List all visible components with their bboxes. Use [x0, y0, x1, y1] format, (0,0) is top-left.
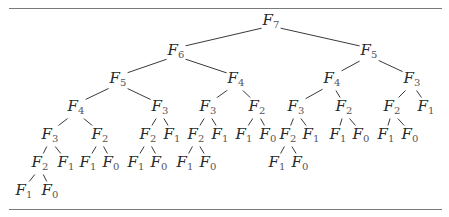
tree-node-f2: F2 [31, 154, 50, 175]
node-symbol: F [404, 69, 414, 87]
tree-node-f0: F0 [291, 154, 310, 175]
tree-node-f0: F0 [41, 182, 60, 203]
node-index: 1 [68, 161, 74, 172]
node-index: 1 [340, 133, 346, 144]
tree-node-f1: F1 [417, 98, 436, 119]
node-index: 1 [279, 161, 285, 172]
tree-node-f0: F0 [401, 126, 420, 147]
node-index: 2 [259, 105, 265, 116]
node-symbol: F [80, 153, 90, 171]
node-symbol: F [58, 153, 68, 171]
node-index: 2 [290, 133, 296, 144]
tree-node-f1: F1 [211, 126, 230, 147]
node-symbol: F [249, 97, 259, 115]
tree-node-f1: F1 [377, 126, 396, 147]
node-symbol: F [103, 153, 113, 171]
node-index: 1 [246, 133, 252, 144]
tree-node-f1: F1 [127, 154, 146, 175]
tree-node-f1: F1 [302, 126, 321, 147]
node-index: 1 [90, 161, 96, 172]
node-index: 6 [178, 49, 184, 60]
tree-node-f4: F4 [67, 98, 86, 119]
tree-node-f5: F5 [360, 42, 379, 63]
node-symbol: F [263, 11, 273, 29]
fibonacci-tree-figure: F7F6F5F5F4F4F3F4F3F3F2F3F2F2F1F3F2F2F1F2… [0, 0, 449, 217]
tree-node-f2: F2 [139, 126, 158, 147]
tree-node-f2: F2 [279, 126, 298, 147]
node-index: 0 [270, 133, 276, 144]
node-index: 0 [52, 189, 58, 200]
node-index: 7 [273, 19, 279, 30]
tree-node-f2: F2 [335, 98, 354, 119]
tree-node-f2: F2 [248, 98, 267, 119]
node-index: 3 [52, 133, 58, 144]
node-index: 2 [42, 161, 48, 172]
node-index: 1 [26, 189, 32, 200]
node-index: 3 [414, 77, 420, 88]
node-index: 1 [313, 133, 319, 144]
node-symbol: F [110, 69, 120, 87]
node-symbol: F [92, 125, 102, 143]
node-index: 0 [363, 133, 369, 144]
tree-node-f4: F4 [227, 70, 246, 91]
node-symbol: F [280, 125, 290, 143]
tree-node-f3: F3 [199, 98, 218, 119]
tree-node-f3: F3 [41, 126, 60, 147]
tree-node-f0: F0 [150, 154, 169, 175]
tree-node-f5: F5 [109, 70, 128, 91]
tree-node-f0: F0 [259, 126, 278, 147]
node-symbol: F [151, 153, 161, 171]
node-index: 2 [198, 133, 204, 144]
node-index: 3 [210, 105, 216, 116]
node-symbol: F [212, 125, 222, 143]
node-index: 2 [394, 105, 400, 116]
node-symbol: F [269, 153, 279, 171]
node-symbol: F [236, 125, 246, 143]
node-index: 4 [78, 105, 84, 116]
node-symbol: F [68, 97, 78, 115]
tree-node-f1: F1 [235, 126, 254, 147]
node-symbol: F [324, 69, 334, 87]
tree-edge [271, 26, 369, 48]
node-index: 4 [334, 77, 340, 88]
tree-node-f0: F0 [199, 154, 218, 175]
node-symbol: F [303, 125, 313, 143]
tree-node-f2: F2 [91, 126, 110, 147]
tree-node-f1: F1 [176, 154, 195, 175]
node-index: 1 [428, 105, 434, 116]
bottom-rule [9, 209, 442, 210]
tree-node-f1: F1 [268, 154, 287, 175]
tree-node-f1: F1 [163, 126, 182, 147]
node-symbol: F [228, 69, 238, 87]
node-index: 3 [298, 105, 304, 116]
node-index: 1 [138, 161, 144, 172]
node-index: 0 [412, 133, 418, 144]
tree-node-f6: F6 [167, 42, 186, 63]
node-symbol: F [361, 41, 371, 59]
node-index: 4 [238, 77, 244, 88]
node-symbol: F [336, 97, 346, 115]
node-symbol: F [292, 153, 302, 171]
node-index: 3 [162, 105, 168, 116]
node-index: 0 [161, 161, 167, 172]
tree-node-f2: F2 [187, 126, 206, 147]
node-index: 5 [120, 77, 126, 88]
node-index: 0 [302, 161, 308, 172]
node-symbol: F [16, 181, 26, 199]
node-symbol: F [288, 97, 298, 115]
node-index: 5 [371, 49, 377, 60]
tree-node-f3: F3 [287, 98, 306, 119]
tree-node-f1: F1 [79, 154, 98, 175]
node-symbol: F [418, 97, 428, 115]
node-symbol: F [188, 125, 198, 143]
node-index: 2 [150, 133, 156, 144]
node-symbol: F [152, 97, 162, 115]
node-symbol: F [402, 125, 412, 143]
tree-node-f0: F0 [102, 154, 121, 175]
node-symbol: F [140, 125, 150, 143]
node-symbol: F [260, 125, 270, 143]
node-index: 2 [102, 133, 108, 144]
tree-node-f3: F3 [151, 98, 170, 119]
tree-node-f3: F3 [403, 70, 422, 91]
tree-node-f2: F2 [383, 98, 402, 119]
